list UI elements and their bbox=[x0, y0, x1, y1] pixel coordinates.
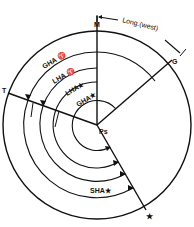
longitude-leader-right bbox=[165, 40, 180, 53]
longitude-tick-g bbox=[180, 49, 186, 56]
longitude-arrowhead bbox=[98, 15, 102, 19]
label-lha-star: LHA★ bbox=[64, 80, 86, 97]
tick-t-1 bbox=[31, 103, 33, 117]
label-longitude: Long.(west) bbox=[122, 16, 159, 33]
label-ps: Ps bbox=[99, 128, 108, 135]
sha-star-arrowhead bbox=[120, 171, 126, 177]
greenwich-line bbox=[97, 60, 172, 125]
sha-star-arc bbox=[40, 106, 125, 181]
sha-outer-arrowhead bbox=[128, 185, 134, 191]
star-icon: ★ bbox=[146, 212, 154, 221]
label-t: T bbox=[2, 87, 7, 94]
label-gha-star: GHA★ bbox=[75, 91, 98, 108]
label-m: M bbox=[94, 21, 100, 28]
gha-aries-ext bbox=[97, 52, 155, 81]
gha-star-arc bbox=[72, 101, 116, 151]
label-g: G bbox=[172, 58, 178, 65]
sha-outer-arc bbox=[24, 100, 133, 198]
tick-t-2 bbox=[55, 111, 59, 127]
hour-angle-diagram: M G T Ps ★ Long.(west) GHA ♈ LHA ♈ LHA★ … bbox=[0, 0, 194, 227]
label-sha-star: SHA★ bbox=[90, 187, 112, 194]
label-lha-aries: LHA ♈ bbox=[51, 65, 77, 85]
